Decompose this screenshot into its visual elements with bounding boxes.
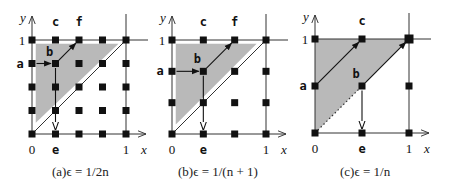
grid-point	[76, 60, 83, 67]
grid-point	[312, 130, 319, 137]
point-label-b: b	[352, 67, 359, 81]
grid-point	[99, 131, 106, 138]
caption-a: (a)ϵ = 1/2n	[52, 164, 109, 180]
tick-label-x-1: 1	[123, 142, 130, 157]
point-label-a: a	[16, 57, 23, 71]
caption-c: (c)ϵ = 1/n	[340, 164, 390, 180]
grid-point	[263, 131, 270, 138]
grid-point	[29, 37, 36, 44]
grid-point	[231, 131, 238, 138]
grid-point	[76, 131, 83, 138]
point-label-e: e	[358, 142, 365, 156]
grid-point	[263, 99, 270, 106]
grid-point	[200, 131, 207, 138]
grid-point	[359, 36, 366, 43]
point-label-f: f	[75, 15, 82, 29]
grid-point	[99, 60, 106, 67]
tick-label-y-1: 1	[159, 33, 166, 48]
axis-label-x: x	[140, 142, 147, 157]
tick-label-x-1: 1	[263, 142, 270, 157]
grid-point	[312, 36, 319, 43]
grid-point	[52, 37, 59, 44]
grid-point	[99, 37, 106, 44]
grid-point	[405, 35, 414, 44]
grid-point	[123, 60, 130, 67]
axis-label-x: x	[423, 141, 430, 156]
grid-point	[359, 83, 366, 90]
axis-label-y: y	[301, 9, 309, 24]
grid-point	[406, 130, 413, 137]
point-label-e: e	[200, 143, 207, 157]
grid-point	[169, 37, 176, 44]
point-label-c: c	[200, 15, 207, 29]
grid-point	[123, 107, 130, 114]
tick-label-y-1: 1	[19, 33, 26, 48]
grid-point	[99, 107, 106, 114]
panel-a: abcef011xy	[16, 10, 148, 157]
point-label-c: c	[358, 14, 365, 28]
grid-point	[52, 131, 59, 138]
grid-point	[29, 131, 36, 138]
grid-point	[123, 37, 130, 44]
axis-label-y: y	[158, 10, 166, 25]
shaded-region	[176, 44, 257, 125]
grid-point	[169, 131, 176, 138]
panel-b: abcef011xy	[156, 10, 288, 157]
tick-label-x-0: 0	[169, 142, 176, 157]
grid-point	[263, 68, 270, 75]
grid-point	[231, 99, 238, 106]
grid-point	[99, 84, 106, 91]
grid-point	[76, 107, 83, 114]
grid-point	[169, 99, 176, 106]
grid-point	[52, 60, 59, 67]
grid-point	[359, 130, 366, 137]
axis-label-x: x	[280, 142, 287, 157]
grid-point	[29, 107, 36, 114]
axis-label-y: y	[18, 10, 26, 25]
tick-label-x-1: 1	[406, 141, 413, 156]
point-label-c: c	[52, 15, 59, 29]
grid-point	[312, 83, 319, 90]
tick-label-x-0: 0	[29, 142, 36, 157]
grid-point	[200, 37, 207, 44]
grid-point	[123, 131, 130, 138]
grid-point	[76, 37, 83, 44]
grid-point	[169, 68, 176, 75]
point-label-b: b	[46, 45, 53, 59]
point-label-b: b	[194, 52, 201, 66]
panel-c: abce011xy	[299, 9, 431, 156]
grid-point	[200, 68, 207, 75]
grid-point	[406, 83, 413, 90]
grid-point	[231, 68, 238, 75]
point-label-f: f	[231, 15, 238, 29]
tick-label-x-0: 0	[312, 141, 319, 156]
grid-point	[123, 84, 130, 91]
grid-point	[29, 84, 36, 91]
point-label-e: e	[52, 143, 59, 157]
grid-point	[76, 84, 83, 91]
caption-b: (b)ϵ = 1/(n + 1)	[178, 164, 258, 180]
point-label-a: a	[299, 79, 306, 93]
grid-point	[263, 37, 270, 44]
tick-label-y-1: 1	[302, 32, 309, 47]
point-label-a: a	[156, 64, 163, 78]
grid-point	[29, 60, 36, 67]
grid-point	[231, 37, 238, 44]
